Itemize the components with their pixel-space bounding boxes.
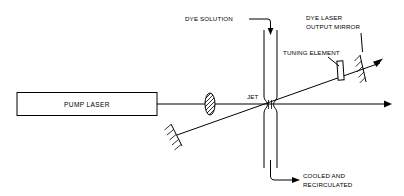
tuning-element-label: TUNING ELEMENT <box>283 49 340 56</box>
pump-laser-label: PUMP LASER <box>64 101 110 108</box>
cooled-label-line2: RECIRCULATED <box>303 181 353 188</box>
dye-laser-beam-arrowhead <box>373 58 383 67</box>
pump-beam-arrowhead <box>384 100 392 107</box>
jet-right-wall <box>274 30 278 168</box>
cooled-arrowhead <box>292 177 300 183</box>
dye-jet-nozzle: JET <box>247 30 277 168</box>
dye-laser-diagram: PUMP LASER <box>0 0 404 196</box>
dye-solution-leader <box>249 19 271 29</box>
schematic-svg: PUMP LASER <box>0 0 404 196</box>
dye-solution-arrowhead <box>268 28 274 35</box>
cooled-leader <box>271 160 295 180</box>
jet-left-wall <box>264 30 268 168</box>
pump-laser-box: PUMP LASER <box>17 93 157 116</box>
dye-outlet: COOLED AND RECIRCULATED <box>271 160 353 188</box>
tuning-element: TUNING ELEMENT <box>283 49 344 80</box>
dye-solution-label: DYE SOLUTION <box>185 15 233 22</box>
cooled-label-line1: COOLED AND <box>303 172 345 179</box>
jet-label: JET <box>247 93 259 100</box>
end-mirror <box>165 124 183 150</box>
output-mirror-leader <box>361 33 363 52</box>
lens-outline <box>205 93 215 115</box>
dye-inlet: DYE SOLUTION <box>185 15 273 35</box>
output-mirror-label-line2: OUTPUT MIRROR <box>306 23 360 30</box>
tuning-element-plate <box>337 61 344 80</box>
end-mirror-surface <box>171 124 182 146</box>
output-mirror-label-line1: DYE LASER <box>306 14 342 21</box>
